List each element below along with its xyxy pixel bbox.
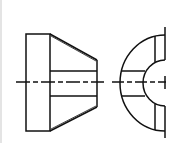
end-view (112, 27, 166, 138)
technical-drawing (0, 0, 180, 143)
side-view (16, 34, 104, 131)
inner-arc (143, 60, 165, 106)
cone-bottom-edge-inner (51, 106, 96, 129)
cone-top-edge (50, 34, 97, 60)
cone-bottom-edge (50, 107, 97, 131)
cone-top-edge-inner (51, 36, 96, 61)
